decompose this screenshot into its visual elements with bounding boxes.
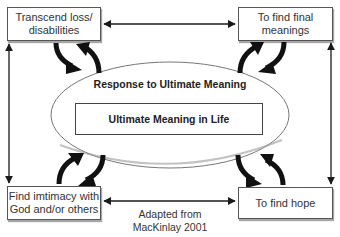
node-final-meanings-line1: To find final (258, 11, 314, 24)
node-find-intimacy: Find imtimacy with God and/or others (7, 186, 101, 220)
center-label-box: Ultimate Meaning in Life (75, 103, 263, 135)
node-find-intimacy-line1: Find imtimacy with (9, 190, 99, 203)
curved-arrows-top-right (240, 42, 284, 73)
source-caption: Adapted from MacKinlay 2001 (118, 208, 222, 234)
node-transcend-loss-line2: disabilities (15, 24, 92, 37)
node-final-meanings: To find final meanings (238, 7, 333, 41)
node-find-intimacy-line2: God and/or others (9, 203, 99, 216)
center-label: Ultimate Meaning in Life (109, 113, 230, 125)
node-transcend-loss: Transcend loss/ disabilities (7, 7, 101, 41)
ellipse-label: Response to Ultimate Meaning (80, 78, 260, 90)
node-find-hope-label: To find hope (256, 197, 316, 210)
node-find-hope: To find hope (238, 187, 333, 219)
curved-arrows-bottom-right (238, 155, 283, 185)
caption-line2: MacKinlay 2001 (118, 221, 222, 234)
node-final-meanings-line2: meanings (258, 24, 314, 37)
caption-line1: Adapted from (118, 208, 222, 221)
node-transcend-loss-line1: Transcend loss/ (15, 11, 92, 24)
